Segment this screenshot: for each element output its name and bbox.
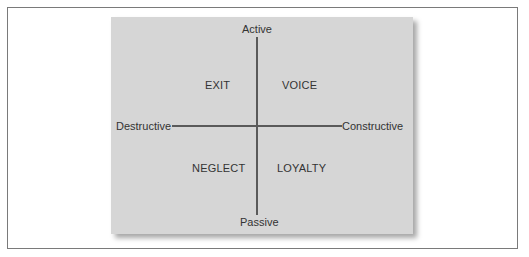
quadrant-label-loyalty: LOYALTY — [277, 162, 326, 174]
horizontal-axis-line — [172, 125, 342, 127]
axis-label-constructive: Constructive — [342, 120, 403, 132]
axis-label-active: Active — [242, 23, 272, 35]
quadrant-label-exit: EXIT — [205, 79, 230, 91]
quadrant-label-voice: VOICE — [282, 79, 317, 91]
axis-label-passive: Passive — [240, 216, 279, 228]
quadrant-label-neglect: NEGLECT — [192, 162, 245, 174]
axis-label-destructive: Destructive — [116, 120, 171, 132]
